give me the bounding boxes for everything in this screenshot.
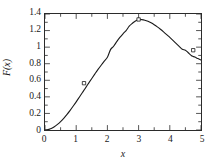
x-tick-label: 2 [105,135,110,145]
x-tick-label: 0 [42,135,47,145]
x-axis-label: x [44,148,202,159]
x-tick-label: 4 [168,135,173,145]
x-tick-label: 5 [200,135,205,145]
x-tick-label: 3 [136,135,141,145]
x-tick-label: 1 [73,135,78,145]
figure-container: 00.20.40.60.811.21.4 F(x) 012345 x [0,0,213,166]
x-axis-tick-labels: 012345 [0,0,213,166]
